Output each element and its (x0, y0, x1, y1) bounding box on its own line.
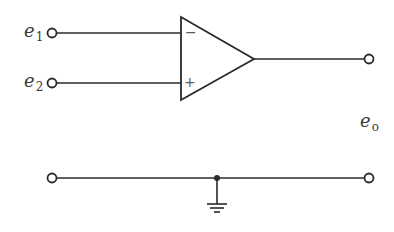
junction-dot (214, 175, 220, 181)
label-e2: e2 (24, 72, 43, 93)
terminal-common-right (365, 174, 374, 183)
label-eo-sub: o (372, 120, 379, 134)
noninverting-input-sign: + (184, 75, 196, 89)
terminal-e2 (48, 79, 57, 88)
op-amp-schematic (0, 0, 394, 232)
label-e1-sub: 1 (36, 30, 44, 44)
label-eo: eo (360, 112, 379, 133)
ground-icon (207, 204, 227, 212)
label-eo-base: e (360, 110, 371, 131)
label-e2-base: e (24, 70, 35, 91)
label-e2-sub: 2 (36, 80, 44, 94)
label-e1-base: e (24, 20, 35, 41)
terminal-e1 (48, 29, 57, 38)
inverting-input-sign: − (185, 25, 197, 39)
label-e1: e1 (24, 22, 43, 43)
terminal-common-left (48, 174, 57, 183)
terminal-output (365, 55, 374, 64)
